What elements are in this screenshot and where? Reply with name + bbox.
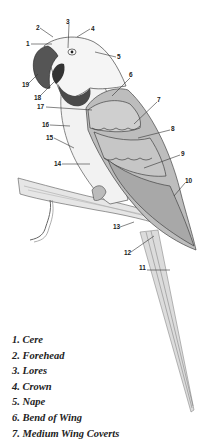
callout-10: 10 [185, 178, 192, 185]
callout-16: 16 [42, 122, 49, 129]
callout-12: 12 [124, 250, 131, 257]
legend-item-crown: 4. Crown [12, 379, 212, 395]
callout-2: 2 [36, 25, 40, 32]
callout-11: 11 [139, 265, 146, 272]
callout-5: 5 [117, 54, 121, 61]
legend-item-lores: 3. Lores [12, 363, 212, 379]
legend: 1. Cere 2. Forehead 3. Lores 4. Crown 5.… [12, 332, 212, 441]
legend-item-bend-of-wing: 6. Bend of Wing [12, 410, 212, 426]
legend-item-medium-wing-coverts: 7. Medium Wing Coverts [12, 426, 212, 441]
callout-8: 8 [171, 126, 175, 133]
callout-1: 1 [26, 41, 30, 48]
legend-item-cere: 1. Cere [12, 332, 212, 348]
callout-19: 19 [22, 82, 29, 89]
legend-item-forehead: 2. Forehead [12, 348, 212, 364]
callout-17: 17 [37, 104, 44, 111]
callout-18: 18 [34, 95, 41, 102]
callout-7: 7 [157, 97, 161, 104]
callout-9: 9 [181, 151, 185, 158]
callout-6: 6 [129, 72, 133, 79]
callout-3: 3 [66, 19, 70, 26]
callout-15: 15 [46, 135, 53, 142]
callout-13: 13 [113, 224, 120, 231]
legend-item-nape: 5. Nape [12, 394, 212, 410]
callout-4: 4 [91, 26, 95, 33]
callout-14: 14 [54, 161, 61, 168]
